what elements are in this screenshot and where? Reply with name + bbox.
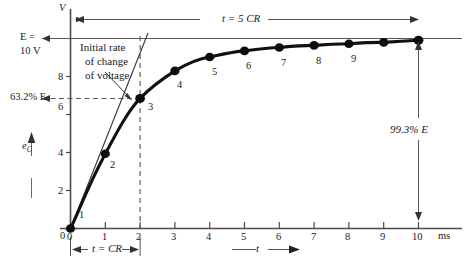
data-point-label-5: 5 xyxy=(212,66,217,78)
x-tick-label-9: 9 xyxy=(380,231,385,243)
x-tick-label-7: 7 xyxy=(311,231,316,243)
time-constant-label: t = CR xyxy=(92,242,122,254)
data-point-label-1: 1 xyxy=(79,209,84,221)
y-tick-label-2: 2 xyxy=(58,185,63,197)
x-tick-label-10: 10 xyxy=(412,231,423,243)
final-value-label: 99.3% E xyxy=(390,123,428,135)
initial-rate-label-line2: of change xyxy=(85,55,128,67)
data-point-label-4: 4 xyxy=(177,79,182,91)
y-tick-label-6: 6 xyxy=(58,101,63,113)
y-tick-label-4: 4 xyxy=(58,147,63,159)
sixty-three-percent-label: 63.2% E xyxy=(10,91,46,103)
initial-rate-label-line3: of voltage xyxy=(85,69,129,81)
x-tick-label-5: 5 xyxy=(241,231,246,243)
y-tick-label-0: 0 xyxy=(60,230,65,242)
source-voltage-label-line1: E = xyxy=(20,31,35,43)
data-point-label-9: 9 xyxy=(351,53,356,65)
x-axis-unit-label: ms xyxy=(438,230,450,242)
y-axis-unit-label: V xyxy=(59,2,65,14)
x-tick-label-6: 6 xyxy=(276,231,281,243)
x-tick-label-0: 0 xyxy=(67,231,72,243)
total-time-label: t = 5 CR xyxy=(222,12,260,24)
y-axis-variable-subscript: C xyxy=(27,145,32,154)
data-point-label-2: 2 xyxy=(110,159,115,171)
x-tick-label-4: 4 xyxy=(206,231,211,243)
x-axis-direction-arrow xyxy=(232,246,300,254)
x-tick-label-8: 8 xyxy=(345,231,350,243)
data-point-label-6: 6 xyxy=(246,60,251,72)
initial-rate-label-line1: Initial rate xyxy=(80,41,126,53)
x-tick-label-2: 2 xyxy=(136,231,141,243)
x-axis-variable-label: t xyxy=(256,242,259,254)
data-point-label-7: 7 xyxy=(281,57,286,69)
x-tick-label-3: 3 xyxy=(171,231,176,243)
source-voltage-label-line2: 10 V xyxy=(20,45,41,57)
x-axis xyxy=(60,222,462,229)
rc-charging-curve-figure: V t = 5 CR E = 10 V 63.2% E Initial rate… xyxy=(0,0,473,274)
y-axis xyxy=(66,9,71,229)
y-axis-variable-label: eC xyxy=(22,140,32,154)
x-tick-label-1: 1 xyxy=(102,231,107,243)
data-point-label-3: 3 xyxy=(148,101,153,113)
data-point-label-8: 8 xyxy=(316,55,321,67)
y-tick-label-8: 8 xyxy=(58,71,63,83)
